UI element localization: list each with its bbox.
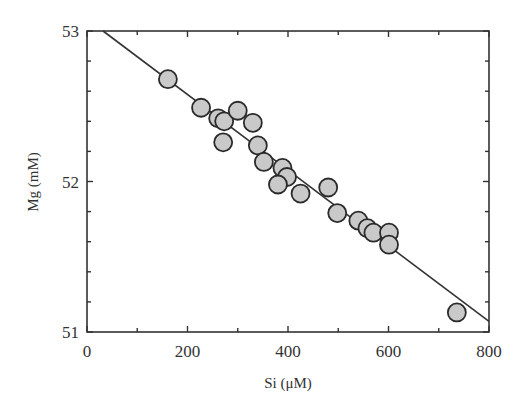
y-tick-label: 51: [62, 323, 79, 342]
data-points: [159, 70, 466, 321]
x-tick-label: 0: [83, 342, 92, 361]
x-axis-title: Si (μM): [264, 375, 312, 392]
data-point: [380, 236, 398, 254]
data-point: [269, 176, 287, 194]
scatter-chart: 0200400600800 515253 Si (μM) Mg (mM): [0, 0, 524, 407]
data-point: [319, 179, 337, 197]
x-tick-labels: 0200400600800: [83, 342, 502, 361]
data-point: [214, 133, 232, 151]
data-point: [249, 136, 267, 154]
x-tick-label: 200: [175, 342, 201, 361]
x-tick-label: 400: [275, 342, 301, 361]
data-point: [244, 114, 262, 132]
data-point: [255, 153, 273, 171]
data-point: [159, 70, 177, 88]
data-point: [292, 185, 310, 203]
y-axis-title: Mg (mM): [25, 152, 42, 212]
y-tick-label: 53: [62, 22, 79, 41]
data-point: [448, 303, 466, 321]
y-tick-label: 52: [62, 173, 79, 192]
data-point: [192, 99, 210, 117]
x-tick-label: 600: [376, 342, 402, 361]
data-point: [328, 204, 346, 222]
x-tick-label: 800: [476, 342, 502, 361]
y-tick-labels: 515253: [62, 22, 79, 342]
data-point: [229, 102, 247, 120]
